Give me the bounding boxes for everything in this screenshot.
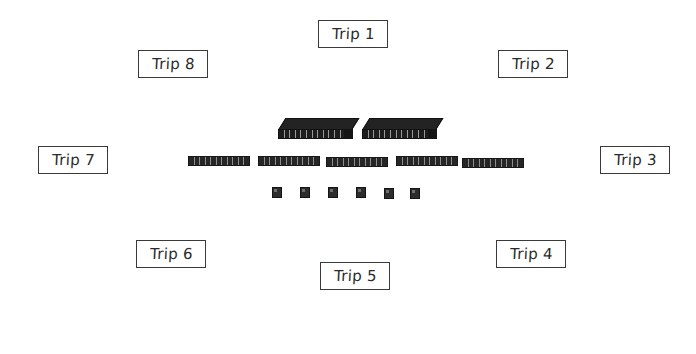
bench-3[interactable]	[326, 157, 388, 167]
stool-1[interactable]	[272, 187, 282, 198]
platform-front-face	[278, 129, 352, 139]
bench-segment	[382, 158, 387, 166]
trip-label-5[interactable]: Trip 5	[320, 262, 390, 290]
stool-highlight	[274, 189, 277, 192]
diagram-canvas: Trip 1Trip 2Trip 3Trip 4Trip 5Trip 6Trip…	[0, 0, 696, 354]
trip-label-1[interactable]: Trip 1	[318, 20, 388, 48]
bench-segment	[244, 157, 249, 165]
platform-1[interactable]	[278, 118, 352, 130]
bench-4[interactable]	[396, 156, 458, 166]
bench-segment	[518, 159, 523, 167]
platform-side-face	[428, 129, 437, 139]
trip-label-6[interactable]: Trip 6	[136, 240, 206, 268]
stool-4[interactable]	[356, 187, 366, 198]
platform-front-face	[362, 129, 436, 139]
stool-highlight	[386, 190, 389, 193]
bench-segment	[452, 157, 457, 165]
trip-label-4[interactable]: Trip 4	[496, 240, 566, 268]
trip-label-text: Trip 6	[149, 245, 193, 263]
trip-label-3[interactable]: Trip 3	[600, 146, 670, 174]
platform-2[interactable]	[362, 118, 436, 130]
platform-side-face	[344, 129, 353, 139]
stool-highlight	[302, 189, 305, 192]
trip-label-text: Trip 4	[509, 245, 553, 263]
stool-highlight	[330, 189, 333, 192]
stool-6[interactable]	[410, 188, 420, 199]
stool-3[interactable]	[328, 187, 338, 198]
stool-5[interactable]	[384, 188, 394, 199]
trip-label-text: Trip 8	[151, 55, 195, 73]
bench-1[interactable]	[188, 156, 250, 166]
trip-label-7[interactable]: Trip 7	[38, 146, 108, 174]
trip-label-2[interactable]: Trip 2	[498, 50, 568, 78]
trip-label-8[interactable]: Trip 8	[138, 50, 208, 78]
trip-label-text: Trip 7	[51, 151, 95, 169]
trip-label-text: Trip 3	[613, 151, 657, 169]
bench-2[interactable]	[258, 156, 320, 166]
stool-2[interactable]	[300, 187, 310, 198]
bench-5[interactable]	[462, 158, 524, 168]
stool-highlight	[412, 190, 415, 193]
trip-label-text: Trip 2	[511, 55, 555, 73]
trip-label-text: Trip 1	[331, 25, 375, 43]
stool-highlight	[358, 189, 361, 192]
trip-label-text: Trip 5	[333, 267, 377, 285]
bench-segment	[314, 157, 319, 165]
